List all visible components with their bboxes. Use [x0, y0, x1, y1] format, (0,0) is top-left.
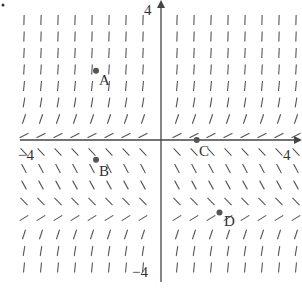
slope-segment: [277, 164, 282, 173]
slope-segment: [58, 263, 59, 273]
slope-segment: [107, 114, 110, 123]
slope-segment: [190, 215, 199, 220]
slope-segment: [20, 198, 27, 205]
slope-segment: [140, 148, 147, 155]
slope-segment: [227, 98, 229, 108]
slope-segment: [56, 164, 61, 173]
slope-segment: [75, 65, 76, 75]
point-b: [93, 157, 99, 163]
slope-segment: [292, 198, 299, 205]
slope-segment: [143, 81, 144, 91]
slope-segment: [177, 65, 178, 75]
slope-segment: [106, 148, 113, 155]
slope-segment: [75, 263, 76, 273]
slope-segment: [194, 263, 195, 273]
slope-segment: [92, 81, 93, 91]
x-axis-min-label: −4: [18, 148, 34, 163]
slope-segment: [40, 98, 42, 108]
slope-segment: [192, 164, 197, 173]
slope-segment: [125, 98, 127, 108]
slope-segment: [245, 81, 246, 91]
slope-segment: [228, 65, 229, 75]
slope-segment: [245, 263, 246, 273]
slope-segment: [294, 114, 297, 123]
slope-segment: [224, 198, 231, 205]
slope-segment: [209, 114, 212, 123]
slope-segment: [73, 164, 78, 173]
slope-segment: [108, 246, 110, 256]
slope-segment: [57, 246, 59, 256]
slope-segment: [73, 181, 78, 190]
slope-segment: [175, 114, 178, 123]
slope-segment: [177, 81, 178, 91]
slope-segment: [262, 263, 263, 273]
slope-segment: [24, 81, 25, 91]
slope-segment: [176, 98, 178, 108]
slope-segment: [296, 65, 297, 75]
slope-segment: [224, 133, 233, 138]
slope-segment: [277, 181, 282, 190]
slope-segment: [226, 164, 231, 173]
slope-segment: [22, 164, 27, 173]
slope-segment: [241, 198, 248, 205]
y-axis-max-label: 4: [144, 3, 152, 18]
slope-segment: [73, 230, 76, 239]
slope-segment: [279, 81, 280, 91]
slope-segment: [211, 81, 212, 91]
slope-segment: [122, 198, 129, 205]
slope-segment: [20, 133, 29, 138]
slope-segment: [88, 198, 95, 205]
slope-segment: [124, 230, 127, 239]
slope-segment: [207, 215, 216, 220]
slope-segment: [177, 263, 178, 273]
slope-segment: [74, 246, 76, 256]
slope-segment: [275, 215, 284, 220]
slope-segment: [278, 98, 280, 108]
slope-segment: [124, 114, 127, 123]
slope-segment: [193, 98, 195, 108]
slope-segment: [226, 230, 229, 239]
slope-segment: [105, 215, 114, 220]
slope-segment: [194, 81, 195, 91]
slope-segment: [296, 263, 297, 273]
slope-segment: [141, 164, 146, 173]
slope-segment: [176, 246, 178, 256]
slope-segment: [91, 98, 93, 108]
slope-segment: [38, 148, 45, 155]
slope-segment: [71, 133, 80, 138]
slope-segment: [243, 114, 246, 123]
slope-segment: [258, 215, 267, 220]
slope-segment: [293, 148, 300, 155]
slope-segment: [126, 263, 127, 273]
slope-segment: [41, 65, 42, 75]
slope-segment: [244, 246, 246, 256]
slope-segment: [260, 114, 263, 123]
slope-segment: [73, 114, 76, 123]
slope-segment: [39, 230, 42, 239]
slope-segment: [192, 230, 195, 239]
slope-segment: [192, 181, 197, 190]
slope-segment: [56, 230, 59, 239]
slope-segment: [209, 230, 212, 239]
slope-segment: [243, 164, 248, 173]
slope-segment: [143, 65, 144, 75]
slope-segment: [175, 230, 178, 239]
slope-segment: [90, 230, 93, 239]
slope-segment: [22, 181, 27, 190]
slope-segment: [142, 98, 144, 108]
slope-segment: [258, 133, 267, 138]
slope-segment: [125, 246, 127, 256]
slope-segment: [92, 65, 93, 75]
slope-segment: [40, 246, 42, 256]
slope-segment: [259, 148, 266, 155]
point-label-d: D: [224, 214, 235, 229]
slope-segment: [139, 215, 148, 220]
slope-segment: [173, 133, 182, 138]
slope-segment: [292, 215, 301, 220]
slope-segment: [211, 263, 212, 273]
slope-segment: [260, 181, 265, 190]
slope-segment: [278, 246, 280, 256]
slope-segment: [57, 98, 59, 108]
slope-field-diagram: [0, 0, 302, 288]
slope-segment: [58, 65, 59, 75]
